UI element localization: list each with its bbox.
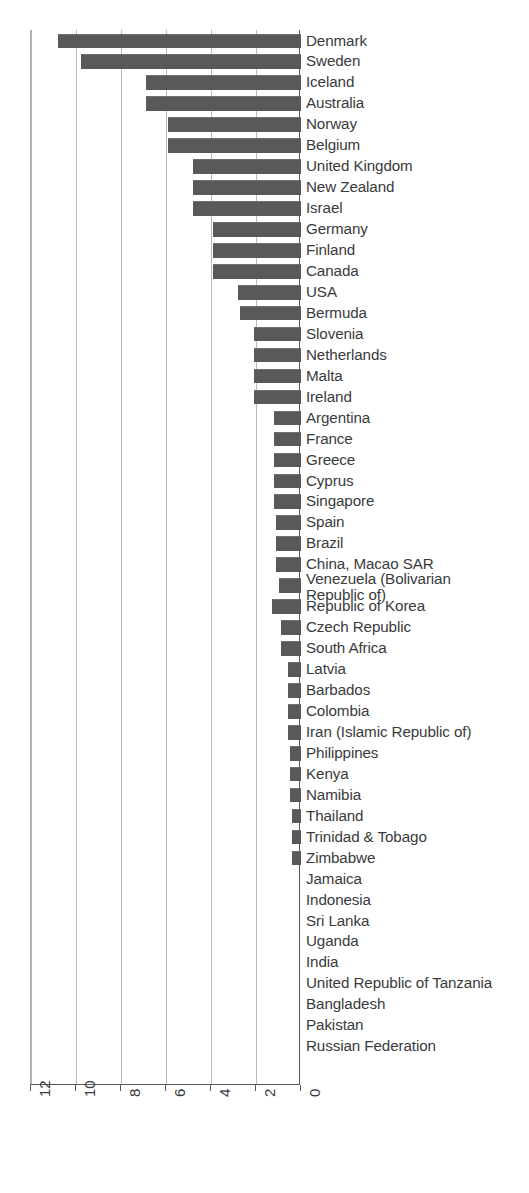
category-label: Finland <box>306 241 355 258</box>
bar <box>288 662 302 677</box>
category-label: Thailand <box>306 807 363 824</box>
category-label: Zimbabwe <box>306 849 375 866</box>
bar-row <box>31 324 299 345</box>
bar-row <box>31 366 299 387</box>
bar <box>276 536 301 551</box>
tick-label-4: 4 <box>216 1089 233 1097</box>
bar-row <box>31 156 299 177</box>
category-label: Namibia <box>306 786 361 803</box>
category-label: Greece <box>306 451 355 468</box>
bar-row <box>31 575 299 596</box>
bar <box>288 725 302 740</box>
bar <box>254 327 301 342</box>
bar <box>274 432 301 447</box>
bar-row <box>31 1036 299 1057</box>
tick-label-10: 10 <box>81 1080 98 1097</box>
category-label: Russian Federation <box>306 1037 436 1054</box>
bar <box>279 578 302 593</box>
bar-row <box>31 848 299 869</box>
bar <box>213 264 301 279</box>
bar <box>288 683 302 698</box>
bar-row <box>31 617 299 638</box>
bar-row <box>31 387 299 408</box>
tick-label-0: 0 <box>306 1089 323 1097</box>
category-label: Bermuda <box>306 304 367 321</box>
bar-row <box>31 512 299 533</box>
category-label: Bangladesh <box>306 995 385 1012</box>
bar <box>254 348 301 363</box>
bar-row <box>31 72 299 93</box>
bar <box>193 159 301 174</box>
category-label: Sri Lanka <box>306 912 369 929</box>
category-label: Pakistan <box>306 1016 363 1033</box>
bar-row <box>31 722 299 743</box>
bar-row <box>31 198 299 219</box>
bar <box>281 641 301 656</box>
bar <box>193 201 301 216</box>
bar <box>146 96 301 111</box>
bar-row <box>31 764 299 785</box>
category-label: Netherlands <box>306 346 387 363</box>
bar-row <box>31 869 299 890</box>
category-label: United Kingdom <box>306 157 413 174</box>
category-label: United Republic of Tanzania <box>306 974 492 991</box>
plot-area <box>30 30 300 1085</box>
bar-row <box>31 450 299 471</box>
category-label: Malta <box>306 367 343 384</box>
category-label: Jamaica <box>306 870 362 887</box>
category-label: USA <box>306 283 337 300</box>
bar <box>290 746 301 761</box>
category-label: Singapore <box>306 492 374 509</box>
bar-row <box>31 282 299 303</box>
bar <box>272 599 301 614</box>
category-label: Barbados <box>306 681 370 698</box>
bar-row <box>31 911 299 932</box>
category-label: Australia <box>306 94 364 111</box>
bar <box>274 474 301 489</box>
category-label: France <box>306 430 353 447</box>
category-label: Iran (Islamic Republic of) <box>306 723 471 740</box>
category-label: Indonesia <box>306 891 371 908</box>
tick-label-12: 12 <box>36 1080 53 1097</box>
category-label: Kenya <box>306 765 349 782</box>
bar <box>276 515 301 530</box>
bar-row <box>31 177 299 198</box>
bar-row <box>31 491 299 512</box>
category-label: Latvia <box>306 660 346 677</box>
category-label: New Zealand <box>306 178 394 195</box>
bar <box>290 788 301 803</box>
bar <box>274 411 301 426</box>
bar-row <box>31 345 299 366</box>
bar <box>254 390 301 405</box>
bar <box>281 620 301 635</box>
category-label: Argentina <box>306 409 370 426</box>
bar-row <box>31 680 299 701</box>
bar <box>81 54 302 69</box>
tick-label-6: 6 <box>171 1089 188 1097</box>
bar-row <box>31 952 299 973</box>
category-label: Israel <box>306 199 343 216</box>
category-label: Slovenia <box>306 325 363 342</box>
category-label: Trinidad & Tobago <box>306 828 427 845</box>
bar <box>213 222 301 237</box>
category-label: South Africa <box>306 639 387 656</box>
category-label: Iceland <box>306 73 354 90</box>
category-label: Philippines <box>306 744 378 761</box>
bar-row <box>31 114 299 135</box>
category-label: Sweden <box>306 52 360 69</box>
bar-row <box>31 533 299 554</box>
bar <box>193 180 301 195</box>
category-label: Ireland <box>306 388 352 405</box>
x-axis-tick-labels: 121086420 <box>0 1085 529 1145</box>
bar <box>292 851 301 866</box>
bar-row <box>31 429 299 450</box>
bar-row <box>31 93 299 114</box>
bar <box>292 809 301 824</box>
bar-row <box>31 785 299 806</box>
category-label: Uganda <box>306 932 359 949</box>
bar-row <box>31 135 299 156</box>
bar-row <box>31 931 299 952</box>
bar-row <box>31 994 299 1015</box>
bar-row <box>31 471 299 492</box>
bar <box>240 306 301 321</box>
